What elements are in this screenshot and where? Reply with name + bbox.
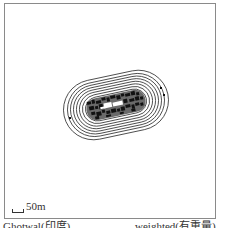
contour-plot	[0, 0, 225, 228]
site-caption: Ghotwal(印度)	[3, 220, 70, 228]
scale-bar	[12, 209, 24, 213]
scale-bar-label: 50m	[26, 200, 46, 212]
method-caption: weighted(有重量)	[135, 220, 216, 228]
